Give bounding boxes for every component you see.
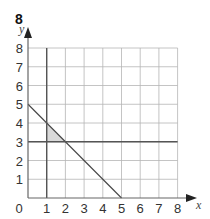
y-tick-label: 4: [16, 116, 23, 131]
x-tick-label: 4: [99, 201, 106, 216]
x-tick-label: 1: [43, 201, 50, 216]
x-tick-label: 7: [155, 201, 162, 216]
x-tick-label: 2: [62, 201, 69, 216]
x-tick-label: 0: [15, 201, 22, 216]
x-tick-label: 6: [137, 201, 144, 216]
x-tick-label: 3: [80, 201, 87, 216]
chart: yx01234567812345678: [0, 0, 210, 219]
x-tick-label: 5: [118, 201, 125, 216]
y-tick-label: 3: [16, 135, 23, 150]
y-axis-label: y: [18, 22, 25, 36]
y-axis-arrow-icon: [24, 27, 32, 38]
x-tick-label: 8: [174, 201, 181, 216]
x-axis-label: x: [195, 198, 202, 212]
y-tick-label: 5: [16, 97, 23, 112]
line-x-y-5: [28, 104, 122, 198]
y-tick-label: 8: [16, 41, 23, 56]
y-tick-label: 7: [16, 60, 23, 75]
y-tick-label: 2: [16, 154, 23, 169]
y-tick-label: 6: [16, 79, 23, 94]
y-tick-label: 1: [16, 172, 23, 187]
